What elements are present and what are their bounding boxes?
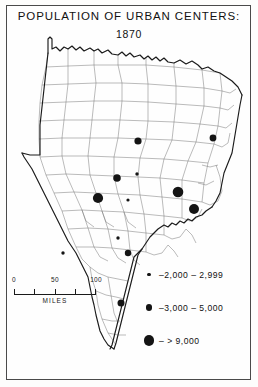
scale-tick-mark-0 xyxy=(14,289,15,294)
scale-tick-100: 100 xyxy=(90,276,102,283)
scale-tick-mark-75 xyxy=(75,289,76,294)
legend-label-large: – > 9,000 xyxy=(159,336,200,346)
legend-dot-icon-medium xyxy=(146,304,152,310)
city-dot xyxy=(135,172,138,175)
legend-item-large: – > 9,000 xyxy=(140,324,250,357)
city-dot xyxy=(93,193,103,203)
scale-tick-mark-100 xyxy=(95,289,96,294)
scale-bar: 0 50 100 MILES xyxy=(14,276,110,304)
scale-tick-0: 0 xyxy=(12,276,16,283)
city-dot xyxy=(61,251,64,254)
legend-label-small: –2,000 – 2,999 xyxy=(159,270,223,280)
scale-bar-line xyxy=(14,287,96,295)
scale-tick-mark-25 xyxy=(34,289,35,294)
scale-tick-50: 50 xyxy=(51,276,59,283)
scale-tick-labels: 0 50 100 xyxy=(14,276,110,287)
map-figure: POPULATION OF URBAN CENTERS: 1870 xyxy=(0,0,258,387)
legend-symbol-wrap-large xyxy=(140,335,158,346)
city-dot xyxy=(125,250,131,256)
city-dot xyxy=(126,198,129,201)
scale-tick-mark-50 xyxy=(55,289,56,294)
city-dot xyxy=(113,174,121,182)
legend-dot-icon-large xyxy=(144,335,155,346)
legend-item-medium: –3,000 – 5,000 xyxy=(140,291,250,324)
city-dot xyxy=(189,204,199,214)
legend-symbol-wrap-small xyxy=(140,273,158,276)
legend-symbol-wrap-medium xyxy=(140,304,158,310)
city-dot xyxy=(210,135,217,142)
legend-item-small: –2,000 – 2,999 xyxy=(140,258,250,291)
legend-label-medium: –3,000 – 5,000 xyxy=(159,303,223,313)
city-dot xyxy=(116,236,119,239)
scale-unit-label: MILES xyxy=(14,297,96,304)
legend-dot-icon-small xyxy=(147,273,150,276)
city-dot xyxy=(118,300,125,307)
city-dot xyxy=(173,187,184,198)
legend: –2,000 – 2,999 –3,000 – 5,000 – > 9,000 xyxy=(140,258,250,357)
city-dot xyxy=(134,137,141,144)
